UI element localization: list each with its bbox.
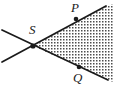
geometry-figure: S P Q	[0, 0, 113, 91]
point-label-p: P	[71, 1, 79, 14]
point-marker-q	[77, 65, 82, 70]
point-marker-s	[30, 43, 35, 48]
point-label-s: S	[29, 23, 36, 36]
point-label-q: Q	[73, 71, 82, 84]
point-marker-p	[74, 17, 79, 22]
geometry-canvas	[0, 0, 113, 91]
